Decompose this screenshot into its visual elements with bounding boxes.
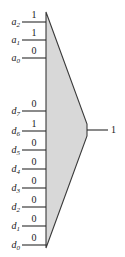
input-label-subscript: 4 xyxy=(17,168,21,176)
input-label-d1: d1 xyxy=(0,221,20,233)
input-value-d7: 0 xyxy=(27,99,41,109)
input-label-subscript: 5 xyxy=(17,149,21,157)
input-label-subscript: 0 xyxy=(17,244,21,252)
mux-body-shape xyxy=(46,12,87,248)
multiplexer-figure: a21a11a00d70d61d50d40d30d20d10d00 1 xyxy=(0,0,125,257)
input-value-d0: 0 xyxy=(27,233,41,243)
input-label-a0: a0 xyxy=(0,53,20,65)
input-value-d4: 0 xyxy=(27,157,41,167)
input-value-d3: 0 xyxy=(27,176,41,186)
input-value-a0: 0 xyxy=(27,46,41,56)
input-label-d4: d4 xyxy=(0,164,20,176)
input-label-subscript: 2 xyxy=(17,21,21,29)
input-value-a2: 1 xyxy=(27,10,41,20)
output-value: 1 xyxy=(111,125,116,135)
input-label-subscript: 1 xyxy=(17,39,21,47)
input-value-d5: 0 xyxy=(27,138,41,148)
input-label-subscript: 3 xyxy=(17,187,21,195)
input-label-subscript: 0 xyxy=(17,57,21,65)
input-label-a2: a2 xyxy=(0,17,20,29)
input-value-d2: 0 xyxy=(27,195,41,205)
input-label-subscript: 7 xyxy=(17,110,21,118)
input-label-d3: d3 xyxy=(0,183,20,195)
input-label-subscript: 6 xyxy=(17,130,21,138)
input-label-d2: d2 xyxy=(0,202,20,214)
input-value-d1: 0 xyxy=(27,214,41,224)
input-label-subscript: 2 xyxy=(17,206,21,214)
input-label-a1: a1 xyxy=(0,35,20,47)
input-label-d5: d5 xyxy=(0,145,20,157)
input-label-subscript: 1 xyxy=(17,225,21,233)
input-label-d0: d0 xyxy=(0,240,20,252)
input-label-d7: d7 xyxy=(0,106,20,118)
input-value-d6: 1 xyxy=(27,119,41,129)
input-label-d6: d6 xyxy=(0,126,20,138)
input-value-a1: 1 xyxy=(27,28,41,38)
